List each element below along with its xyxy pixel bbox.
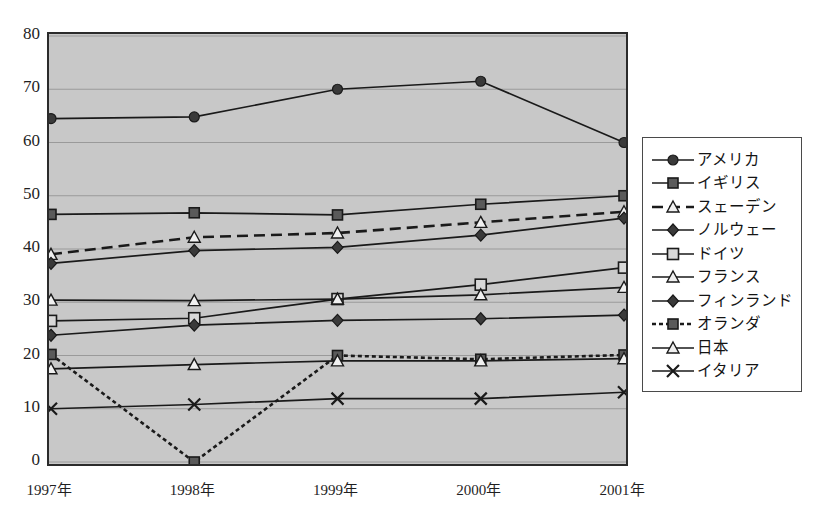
marker-diamond-filled [475, 313, 486, 325]
legend-key-triangle-open [649, 266, 697, 288]
legend-key-diamond-filled [649, 219, 697, 241]
marker-square-filled [476, 199, 486, 209]
legend-key-square-filled [649, 172, 697, 194]
plot-area [47, 32, 628, 466]
y-tick-label: 70 [2, 78, 40, 95]
legend-item[interactable]: スェーデン [649, 195, 799, 219]
series-6 [49, 309, 626, 341]
marker-square-filled [619, 191, 626, 201]
legend-item-label: イタリア [697, 363, 760, 379]
series-line [51, 354, 624, 462]
marker-circle-filled [189, 112, 199, 122]
marker-square-filled [189, 457, 199, 464]
x-tick-label: 2001年 [562, 483, 682, 498]
x-tick-label: 1998年 [132, 483, 252, 498]
legend-key-square-filled [649, 313, 697, 335]
series-1 [49, 191, 626, 220]
legend-key-circle-filled [649, 149, 697, 171]
y-tick-label: 0 [2, 451, 40, 468]
y-tick-label: 50 [2, 185, 40, 202]
y-tick-label: 40 [2, 238, 40, 255]
legend-item-label: 日本 [697, 340, 729, 356]
y-tick-label: 30 [2, 291, 40, 308]
legend-key-triangle-open [649, 196, 697, 218]
marker-circle-filled [333, 84, 343, 94]
legend-item[interactable]: アメリカ [649, 148, 799, 172]
chart-page: 80706050403020100 1997年1998年1999年2000年20… [0, 0, 828, 524]
marker-square-open [619, 262, 627, 273]
marker-diamond-filled [189, 245, 200, 257]
marker-square-filled [333, 210, 343, 220]
legend-item-label: スェーデン [697, 199, 777, 215]
marker-square-filled [668, 319, 678, 329]
legend-item[interactable]: オランダ [649, 313, 799, 337]
legend-item[interactable]: ノルウェー [649, 219, 799, 243]
legend-item-label: ドイツ [697, 246, 745, 262]
marker-circle-filled [49, 114, 56, 124]
y-tick-label: 80 [2, 25, 40, 42]
marker-square-open [49, 315, 57, 326]
series-9 [49, 386, 626, 415]
legend-list: アメリカイギリススェーデンノルウェードイツフランスフィンランドオランダ日本イタリ… [649, 148, 799, 383]
x-tick-label: 2000年 [419, 483, 539, 498]
legend-item-label: イギリス [697, 175, 761, 191]
legend-item-label: フィンランド [697, 293, 793, 309]
marker-square-filled [668, 178, 678, 188]
legend-box: アメリカイギリススェーデンノルウェードイツフランスフィンランドオランダ日本イタリ… [642, 137, 802, 392]
top-caption-sliver [34, 0, 454, 7]
x-tick-label: 1997年 [0, 483, 109, 498]
y-tick-label: 10 [2, 398, 40, 415]
legend-key-cross [649, 360, 697, 382]
legend-item[interactable]: ドイツ [649, 242, 799, 266]
marker-diamond-filled [668, 224, 679, 236]
legend-item[interactable]: イタリア [649, 360, 799, 384]
marker-circle-filled [619, 138, 626, 148]
legend-item-label: ノルウェー [697, 222, 777, 238]
legend-key-square-open [649, 243, 697, 265]
marker-square-open [668, 248, 679, 259]
marker-square-filled [49, 209, 56, 219]
series-line [51, 392, 624, 409]
plot-svg [49, 34, 626, 464]
series-0 [49, 76, 626, 147]
marker-diamond-filled [619, 309, 627, 321]
marker-diamond-filled [49, 329, 57, 341]
x-tick-label: 1999年 [276, 483, 396, 498]
legend-item-label: オランダ [697, 316, 761, 332]
legend-item[interactable]: フランス [649, 266, 799, 290]
legend-item[interactable]: イギリス [649, 172, 799, 196]
y-tick-label: 20 [2, 345, 40, 362]
legend-item[interactable]: フィンランド [649, 289, 799, 313]
marker-circle-filled [668, 155, 678, 165]
marker-square-filled [49, 349, 56, 359]
marker-diamond-filled [668, 295, 679, 307]
legend-key-diamond-filled [649, 290, 697, 312]
marker-square-filled [189, 208, 199, 218]
marker-diamond-filled [332, 314, 343, 326]
marker-diamond-filled [475, 229, 486, 241]
legend-item[interactable]: 日本 [649, 336, 799, 360]
legend-item-label: フランス [697, 269, 761, 285]
marker-diamond-filled [332, 241, 343, 253]
legend-key-triangle-open [649, 337, 697, 359]
legend-item-label: アメリカ [697, 152, 760, 168]
marker-circle-filled [476, 76, 486, 86]
y-tick-label: 60 [2, 132, 40, 149]
